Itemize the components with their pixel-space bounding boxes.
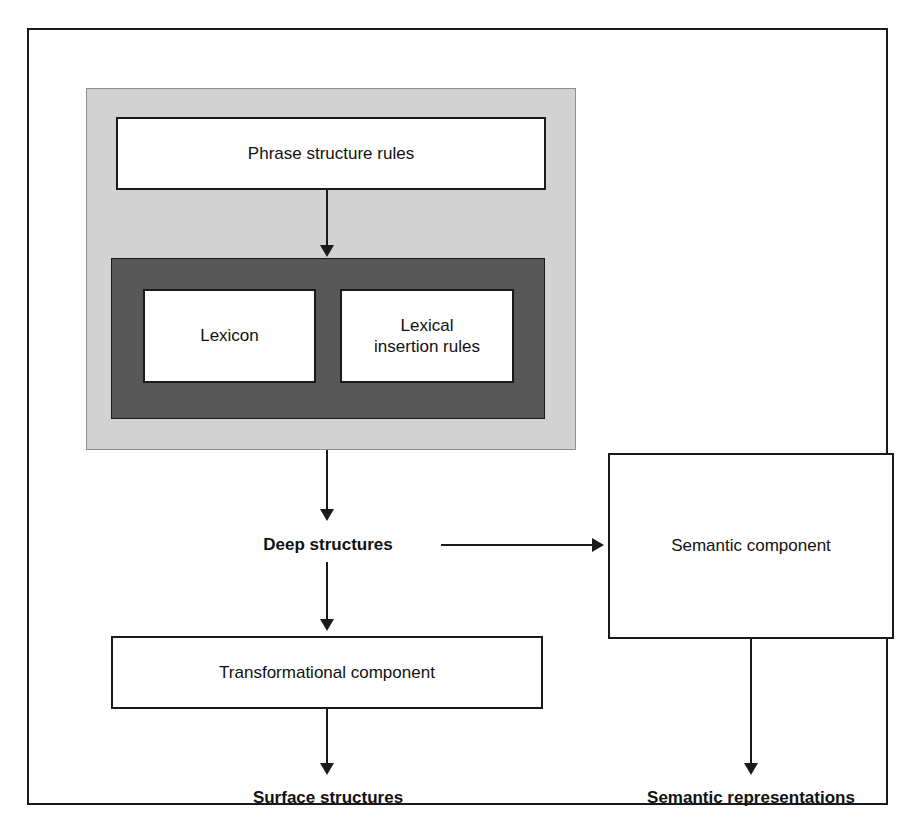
box-phrase-structure-rules[interactable]: Phrase structure rules <box>116 117 546 190</box>
box-transformational-component-label: Transformational component <box>219 662 435 683</box>
connector-semantic-to-representations-arrowhead <box>744 763 758 775</box>
box-lexical-insertion-rules-label-line1: Lexical <box>401 316 454 335</box>
connector-phrase-to-lexical-arrowhead <box>320 245 334 257</box>
diagram-canvas: Phrase structure rules Lexicon Lexical i… <box>0 0 908 831</box>
connector-deep-to-transformational-line <box>326 562 328 622</box>
box-lexicon[interactable]: Lexicon <box>143 289 316 383</box>
box-transformational-component[interactable]: Transformational component <box>111 636 543 709</box>
connector-lexical-to-deep-line <box>326 450 328 512</box>
box-semantic-component-label: Semantic component <box>671 535 831 556</box>
connector-transformational-to-surface-arrowhead <box>320 763 334 775</box>
connector-semantic-to-representations-line <box>750 639 752 766</box>
connector-lexical-to-deep-arrowhead <box>320 509 334 521</box>
box-lexical-insertion-rules-label: Lexical insertion rules <box>374 315 480 358</box>
label-deep-structures: Deep structures <box>215 535 441 555</box>
connector-deep-to-semantic-line <box>441 544 593 546</box>
box-lexical-insertion-rules[interactable]: Lexical insertion rules <box>340 289 514 383</box>
box-semantic-component[interactable]: Semantic component <box>608 453 894 639</box>
label-semantic-representations: Semantic representations <box>638 788 864 808</box>
box-phrase-structure-rules-label: Phrase structure rules <box>248 143 414 164</box>
diagram-outer-frame: Phrase structure rules Lexicon Lexical i… <box>27 28 888 805</box>
connector-deep-to-transformational-arrowhead <box>320 619 334 631</box>
connector-deep-to-semantic-arrowhead <box>592 538 604 552</box>
box-lexicon-label: Lexicon <box>200 325 259 346</box>
connector-phrase-to-lexical-line <box>326 190 328 248</box>
label-surface-structures: Surface structures <box>215 788 441 808</box>
connector-transformational-to-surface-line <box>326 709 328 766</box>
box-lexical-insertion-rules-label-line2: insertion rules <box>374 337 480 356</box>
